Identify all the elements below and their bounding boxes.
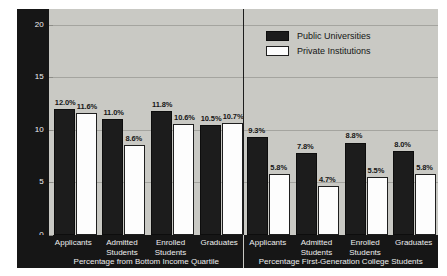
- category-label: EnrolledStudents: [341, 238, 390, 257]
- bar: [76, 113, 97, 235]
- bar-value-label: 4.7%: [319, 176, 336, 184]
- panel-caption: Percentage First-Generation College Stud…: [244, 257, 439, 267]
- chart-legend: Public Universities Private Institutions: [266, 30, 421, 64]
- bar-value-label: 11.0%: [103, 109, 123, 117]
- bar-value-label: 8.8%: [346, 132, 363, 140]
- bar-value-label: 8.6%: [125, 135, 142, 143]
- bar: [151, 111, 172, 235]
- bar-value-label: 11.6%: [77, 103, 97, 111]
- legend-label-private: Private Institutions: [297, 45, 371, 57]
- panel-divider: [243, 9, 244, 235]
- bar: [102, 119, 123, 235]
- y-tick-label: 15: [35, 73, 44, 81]
- legend-swatch-public: [266, 31, 289, 41]
- bar: [200, 125, 221, 235]
- caption-divider: [243, 235, 244, 268]
- category-label: EnrolledStudents: [146, 238, 195, 257]
- category-axis-band: ApplicantsAdmittedStudentsEnrolledStuden…: [17, 235, 438, 268]
- bar: [345, 143, 366, 236]
- y-tick-mark: [49, 77, 53, 78]
- legend-label-public: Public Universities: [297, 30, 371, 42]
- category-label: AdmittedStudents: [98, 238, 147, 257]
- bar: [173, 124, 194, 235]
- legend-swatch-private: [266, 46, 289, 56]
- bar-value-label: 12.0%: [55, 99, 76, 107]
- bar-value-label: 5.8%: [270, 164, 287, 172]
- bar: [367, 177, 388, 235]
- y-tick-mark: [49, 25, 53, 26]
- bar-value-label: 9.3%: [248, 127, 265, 135]
- panel-caption: Percentage from Bottom Income Quartile: [49, 257, 244, 267]
- y-tick-label: 10: [35, 126, 44, 134]
- bar-value-label: 7.8%: [297, 143, 314, 151]
- y-tick-mark: [49, 235, 53, 236]
- bar: [318, 186, 339, 235]
- category-label: Applicants: [244, 238, 293, 248]
- category-label: Graduates: [195, 238, 244, 248]
- bar-value-label: 8.0%: [394, 141, 411, 149]
- bar-value-label: 10.7%: [223, 113, 244, 121]
- category-label: Applicants: [49, 238, 98, 248]
- y-tick-label: 5: [39, 178, 44, 186]
- bar-value-label: 11.8%: [152, 101, 172, 109]
- y-axis: 05101520: [17, 9, 49, 235]
- bar: [124, 145, 145, 235]
- bar-value-label: 10.6%: [174, 114, 195, 122]
- bar: [247, 137, 268, 235]
- y-tick-mark: [49, 182, 53, 183]
- bar: [222, 123, 243, 235]
- bar: [393, 151, 414, 235]
- category-label: Graduates: [389, 238, 438, 248]
- bar: [296, 153, 317, 235]
- bar-value-label: 5.8%: [416, 164, 433, 172]
- bar: [415, 174, 436, 235]
- chart-figure: 05101520 12.0%11.6%11.0%8.6%11.8%10.6%10…: [17, 9, 438, 268]
- bar: [54, 109, 75, 235]
- y-tick-label: 20: [35, 21, 44, 29]
- bar-value-label: 10.5%: [201, 115, 222, 123]
- category-label: AdmittedStudents: [292, 238, 341, 257]
- bar: [269, 174, 290, 235]
- bar-value-label: 5.5%: [368, 167, 385, 175]
- y-tick-mark: [49, 130, 53, 131]
